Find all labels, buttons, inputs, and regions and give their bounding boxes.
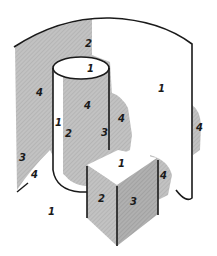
label-cylinder-left-highlight: 1 — [55, 117, 62, 128]
label-cube-right-face: 3 — [130, 196, 137, 207]
label-cylinder-lower-mid: 2 — [65, 128, 72, 139]
label-wall-right: 1 — [158, 83, 165, 94]
label-cube-cast-shadow: 4 — [159, 170, 167, 181]
label-floor: 1 — [48, 206, 55, 217]
label-cube-left-face: 2 — [98, 193, 105, 204]
cylinder-top — [53, 57, 109, 79]
label-cylinder-lower-right: 3 — [101, 127, 108, 138]
label-wall-left-bottom: 4 — [30, 169, 38, 180]
label-wall-top-left: 2 — [85, 38, 92, 49]
label-wall-right-edge: 4 — [195, 122, 203, 133]
label-cylinder-body-center: 4 — [83, 100, 91, 111]
label-wall-left-upper: 4 — [35, 87, 43, 98]
label-cube-top: 1 — [118, 158, 125, 169]
value-study-diagram: 2 1 4 4 1 4 4 1 2 3 3 4 1 1 2 3 4 — [0, 0, 217, 256]
label-cylinder-shadow-right: 4 — [117, 113, 125, 124]
label-wall-left-lower: 3 — [19, 152, 26, 163]
label-cylinder-top: 1 — [87, 63, 94, 74]
